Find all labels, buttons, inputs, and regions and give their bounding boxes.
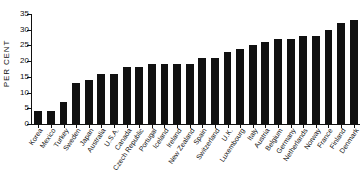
bar <box>173 64 181 124</box>
plot-area: 05101520253035 <box>14 14 360 126</box>
bar <box>224 52 232 124</box>
bar <box>34 111 42 124</box>
y-axis-tick-mark <box>27 30 31 31</box>
x-axis-line <box>31 124 360 125</box>
y-axis-title-label: PER CENT <box>3 39 12 87</box>
bar-chart: PER CENT 05101520253035 KoreaMexicoTurke… <box>0 0 360 190</box>
bar <box>60 102 68 124</box>
bar <box>211 58 219 124</box>
bar <box>85 80 93 124</box>
bar <box>249 45 257 124</box>
bar <box>110 74 118 124</box>
y-axis-tick-mark <box>27 108 31 109</box>
bar <box>47 111 55 124</box>
bar <box>97 74 105 124</box>
bar <box>161 64 169 124</box>
x-axis-tick-labels: KoreaMexicoTurkeySwedenJapanAustraliaU.S… <box>32 127 360 190</box>
bar <box>198 58 206 124</box>
bar <box>312 36 320 124</box>
bars-layer <box>32 14 360 124</box>
bar <box>148 64 156 124</box>
y-axis-tick-mark <box>27 93 31 94</box>
bar <box>337 23 345 124</box>
y-axis-tick-mark <box>27 124 31 125</box>
y-axis-tick-mark <box>27 77 31 78</box>
bar <box>325 30 333 124</box>
bar <box>274 39 282 124</box>
bar <box>350 20 358 124</box>
bar <box>299 36 307 124</box>
y-axis-tick-mark <box>27 14 31 15</box>
y-axis-tick-mark <box>27 45 31 46</box>
y-axis-title: PER CENT <box>0 0 14 126</box>
y-axis-tick-mark <box>27 61 31 62</box>
bar <box>287 39 295 124</box>
bar <box>135 67 143 124</box>
bar <box>186 64 194 124</box>
bar <box>261 42 269 124</box>
bar <box>236 49 244 124</box>
bar <box>72 83 80 124</box>
bar <box>123 67 131 124</box>
